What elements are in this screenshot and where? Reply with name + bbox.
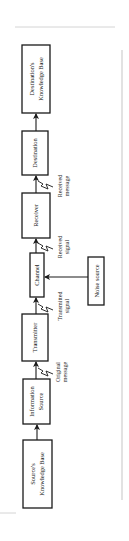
dest-kb-line2: Knowledge Base bbox=[37, 57, 44, 101]
svg-text:message: message bbox=[62, 362, 68, 383]
information-source-box: Information Source bbox=[23, 379, 50, 424]
transmitter-box: Transmitter bbox=[22, 314, 48, 361]
transmitter-label: Transmitter bbox=[31, 322, 38, 352]
destination-box: Destination bbox=[22, 131, 48, 175]
communication-diagram: Source's Knowledge Base Information Sour… bbox=[0, 0, 129, 541]
destination-knowledge-base-box: Destination's Knowledge Base bbox=[22, 45, 50, 113]
noise-source-label: Noise source bbox=[93, 264, 100, 297]
lightning-bolt-icon bbox=[38, 368, 53, 376]
source-kb-line1: Source's bbox=[29, 463, 36, 485]
svg-text:Received: Received bbox=[57, 175, 63, 197]
svg-text:signal: signal bbox=[64, 240, 70, 255]
info-source-line2: Source bbox=[37, 392, 44, 410]
receiver-box: Receiver bbox=[22, 193, 50, 238]
svg-text:Original: Original bbox=[55, 362, 61, 382]
signal-label-original-message: Original message bbox=[55, 362, 68, 383]
channel-box: Channel bbox=[30, 253, 44, 297]
svg-text:signal: signal bbox=[64, 299, 70, 314]
signal-label-received-signal: Received signal bbox=[57, 236, 70, 258]
dest-kb-line1: Destination's bbox=[28, 62, 35, 96]
signal-label-transmitted-signal: Transmitted signal bbox=[57, 292, 70, 321]
source-knowledge-base-box: Source's Knowledge Base bbox=[23, 440, 52, 508]
source-kb-line2: Knowledge Base bbox=[38, 452, 45, 496]
signal-label-received-message: Received message bbox=[57, 175, 70, 197]
svg-text:Received: Received bbox=[57, 236, 63, 258]
channel-label: Channel bbox=[33, 264, 40, 286]
lightning-bolt-icon bbox=[38, 243, 53, 251]
info-source-line1: Information bbox=[28, 385, 35, 416]
svg-text:message: message bbox=[64, 176, 70, 197]
lightning-bolt-icon bbox=[38, 304, 53, 312]
receiver-label: Receiver bbox=[32, 203, 39, 227]
lightning-bolt-icon bbox=[38, 181, 53, 189]
noise-source-box: Noise source bbox=[88, 257, 104, 305]
svg-text:Transmitted: Transmitted bbox=[57, 292, 63, 321]
destination-label: Destination bbox=[31, 137, 38, 167]
